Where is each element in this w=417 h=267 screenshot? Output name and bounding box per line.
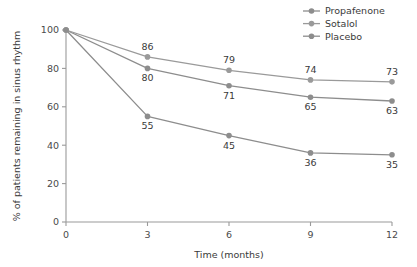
x-axis-tick-label: 6 <box>226 229 232 240</box>
data-label-placebo-month-6: 45 <box>223 140 235 151</box>
data-point-placebo-month-3 <box>145 114 151 120</box>
legend-label-placebo: Placebo <box>325 31 362 42</box>
legend-marker-sotalol <box>309 21 315 27</box>
data-label-propafenone-month-3: 80 <box>141 72 153 83</box>
data-label-propafenone-month-12: 63 <box>386 105 398 116</box>
data-point-placebo-month-12 <box>389 152 395 158</box>
data-point-sotalol-month-12 <box>389 79 395 85</box>
data-label-placebo-month-12: 35 <box>386 159 398 170</box>
data-label-sotalol-month-12: 73 <box>386 66 398 77</box>
data-label-sotalol-month-9: 74 <box>304 64 316 75</box>
x-axis-tick-label: 12 <box>386 229 398 240</box>
y-axis-tick-label: 80 <box>47 63 59 74</box>
data-point-placebo-month-6 <box>226 133 232 139</box>
line-chart-figure: 020406080100036912Time (months)% of pati… <box>0 0 417 267</box>
chart-canvas: 020406080100036912Time (months)% of pati… <box>0 0 417 267</box>
y-axis-tick-label: 100 <box>41 24 59 35</box>
data-point-sotalol-month-3 <box>145 54 151 60</box>
legend-label-propafenone: Propafenone <box>325 5 385 16</box>
y-axis-tick-label: 0 <box>53 216 59 227</box>
data-point-propafenone-month-6 <box>226 83 232 89</box>
x-axis-title: Time (months) <box>193 249 263 260</box>
data-point-sotalol-month-9 <box>308 77 314 83</box>
data-label-placebo-month-9: 36 <box>304 157 316 168</box>
x-axis-tick-label: 3 <box>144 229 150 240</box>
legend-label-sotalol: Sotalol <box>325 18 357 29</box>
y-axis-title: % of patients remaining in sinus rhythm <box>11 31 22 222</box>
y-axis-tick-label: 40 <box>47 140 59 151</box>
data-label-placebo-month-3: 55 <box>141 120 153 131</box>
data-point-placebo-month-9 <box>308 150 314 156</box>
legend-marker-placebo <box>309 33 315 39</box>
data-point-propafenone-month-3 <box>145 66 151 72</box>
data-point-propafenone-month-12 <box>389 98 395 104</box>
data-point-sotalol-month-6 <box>226 68 232 74</box>
data-label-sotalol-month-6: 79 <box>223 54 235 65</box>
data-label-propafenone-month-9: 65 <box>304 101 316 112</box>
x-axis-tick-label: 9 <box>307 229 313 240</box>
data-point-propafenone-month-9 <box>308 94 314 100</box>
data-label-sotalol-month-3: 86 <box>141 41 153 52</box>
y-axis-tick-label: 20 <box>47 178 59 189</box>
x-axis-tick-label: 0 <box>63 229 69 240</box>
legend-marker-propafenone <box>309 8 315 14</box>
y-axis-tick-label: 60 <box>47 101 59 112</box>
data-point-placebo-month-0 <box>63 27 69 33</box>
data-label-propafenone-month-6: 71 <box>223 90 235 101</box>
